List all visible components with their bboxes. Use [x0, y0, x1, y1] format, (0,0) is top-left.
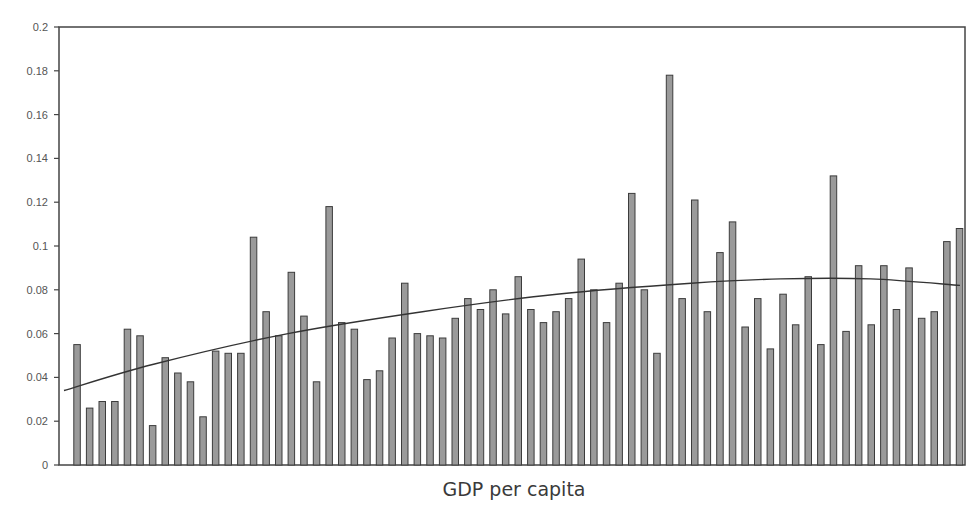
bar	[465, 299, 472, 465]
bar	[439, 338, 446, 465]
bar	[893, 310, 900, 466]
bar	[427, 336, 434, 465]
bar	[805, 277, 812, 465]
trend-line	[64, 278, 960, 390]
bar	[250, 237, 256, 465]
bar	[389, 338, 396, 465]
bar	[855, 266, 862, 465]
bar	[187, 382, 194, 465]
bar	[843, 331, 850, 465]
bar	[591, 290, 598, 465]
bar	[578, 259, 585, 465]
bar	[490, 290, 497, 465]
bar	[339, 323, 346, 465]
bar	[956, 229, 963, 466]
bar	[704, 312, 711, 465]
bar	[755, 299, 762, 465]
bar	[162, 358, 169, 465]
bar	[502, 314, 509, 465]
bar	[818, 345, 825, 465]
bar-series	[74, 75, 963, 465]
bar	[200, 417, 207, 465]
bar	[86, 408, 93, 465]
bar	[918, 318, 925, 465]
bar	[729, 222, 736, 465]
y-tick-label: 0.06	[27, 328, 48, 340]
bar	[149, 426, 156, 465]
bar	[477, 310, 484, 466]
bar	[692, 200, 699, 465]
y-axis: 00.020.040.060.080.10.120.140.160.180.2	[27, 21, 59, 471]
bar	[881, 266, 888, 465]
bar	[944, 242, 951, 465]
bar	[528, 310, 535, 466]
y-tick-label: 0.02	[27, 415, 48, 427]
bar	[565, 299, 572, 465]
bar	[99, 402, 106, 466]
bar	[654, 353, 661, 465]
bar	[780, 294, 787, 465]
bar	[906, 268, 913, 465]
bar	[301, 316, 308, 465]
bar	[313, 382, 320, 465]
bar	[666, 75, 673, 465]
bar	[225, 353, 232, 465]
y-tick-label: 0.16	[27, 109, 48, 121]
bar	[767, 349, 774, 465]
y-tick-label: 0	[42, 459, 48, 471]
bar	[679, 299, 686, 465]
y-tick-label: 0.12	[27, 196, 48, 208]
bar	[515, 277, 522, 465]
bar	[792, 325, 799, 465]
bar	[124, 329, 131, 465]
y-tick-label: 0.14	[27, 152, 48, 164]
bar	[212, 351, 219, 465]
y-tick-label: 0.08	[27, 284, 48, 296]
bar	[540, 323, 547, 465]
bar	[288, 272, 295, 465]
bar	[364, 380, 371, 465]
bar	[112, 402, 119, 466]
x-axis-label: GDP per capita	[0, 478, 978, 500]
y-tick-label: 0.04	[27, 371, 48, 383]
y-tick-label: 0.2	[33, 21, 48, 33]
bar	[238, 353, 245, 465]
bar	[616, 283, 623, 465]
bar	[326, 207, 333, 465]
bar	[175, 373, 182, 465]
bar	[376, 371, 383, 465]
bar	[629, 193, 636, 465]
plot-frame	[59, 27, 965, 465]
bar	[641, 290, 648, 465]
bar	[414, 334, 421, 465]
bar	[603, 323, 610, 465]
bar	[74, 345, 81, 465]
bar	[402, 283, 409, 465]
bar	[263, 312, 270, 465]
bar-chart: 00.020.040.060.080.10.120.140.160.180.2	[0, 0, 978, 512]
bar	[553, 312, 560, 465]
y-tick-label: 0.18	[27, 65, 48, 77]
y-tick-label: 0.1	[33, 240, 48, 252]
bar	[931, 312, 938, 465]
bar	[276, 336, 283, 465]
bar	[137, 336, 144, 465]
bar	[351, 329, 358, 465]
bar	[830, 176, 837, 465]
bar	[452, 318, 459, 465]
bar	[742, 327, 749, 465]
bar	[868, 325, 875, 465]
bar	[717, 253, 724, 465]
